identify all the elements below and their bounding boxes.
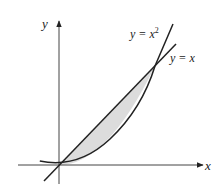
parabola-label: y = x2: [129, 26, 159, 41]
diagram-canvas: y x y = x2 y = x: [0, 0, 216, 193]
x-axis-label: x: [204, 158, 211, 173]
y-axis-label: y: [40, 16, 48, 31]
line-label: y = x: [169, 51, 195, 65]
parabola-y-equals-x-squared: [40, 24, 173, 163]
